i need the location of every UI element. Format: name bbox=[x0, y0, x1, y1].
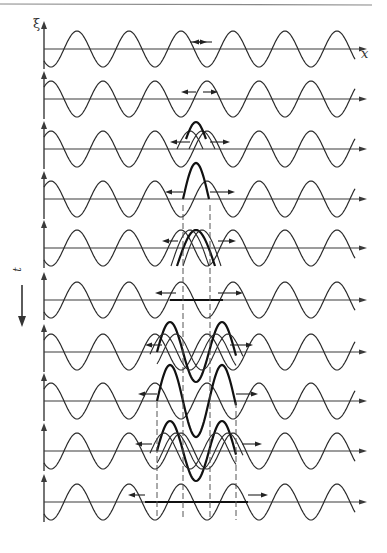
arrowhead-icon bbox=[162, 239, 169, 244]
axis-arrowhead-icon bbox=[41, 474, 47, 482]
wave-rows bbox=[41, 21, 367, 522]
time-arrow bbox=[18, 285, 26, 327]
wave-row bbox=[41, 474, 367, 522]
axis-arrowhead-icon bbox=[359, 399, 367, 404]
wave-diagram bbox=[0, 0, 387, 553]
axis-arrowhead-icon bbox=[41, 171, 47, 179]
wave-row bbox=[41, 71, 367, 119]
arrowhead-icon bbox=[192, 40, 199, 45]
arrowhead-icon bbox=[246, 343, 253, 348]
axis-arrowhead-icon bbox=[41, 324, 47, 332]
arrowhead-icon bbox=[255, 442, 262, 447]
axis-arrowhead-icon bbox=[41, 71, 47, 79]
wave-row bbox=[41, 365, 367, 437]
wave-row bbox=[41, 163, 367, 219]
wave-row bbox=[41, 220, 367, 268]
axis-arrowhead-icon bbox=[41, 121, 47, 129]
axis-arrowhead-icon bbox=[41, 21, 47, 29]
axis-arrowhead-icon bbox=[359, 246, 367, 251]
arrowhead-icon bbox=[138, 392, 145, 397]
position-axis-label: x bbox=[361, 46, 368, 61]
arrowhead-icon bbox=[228, 190, 235, 195]
axis-arrowhead-icon bbox=[359, 97, 367, 102]
wave-row bbox=[41, 21, 367, 69]
arrowhead-icon bbox=[223, 140, 230, 145]
arrowhead-icon bbox=[261, 493, 268, 498]
wave-row bbox=[41, 272, 367, 320]
wave-row bbox=[41, 322, 367, 382]
displacement-axis-label: ξ bbox=[33, 16, 40, 31]
axis-arrowhead-icon bbox=[41, 373, 47, 381]
axis-arrowhead-icon bbox=[359, 500, 367, 505]
arrowhead-icon bbox=[128, 493, 135, 498]
axis-arrowhead-icon bbox=[41, 423, 47, 431]
arrowhead-icon bbox=[181, 90, 188, 95]
arrowhead-icon bbox=[170, 140, 177, 145]
wave-row bbox=[41, 421, 367, 481]
axis-arrowhead-icon bbox=[359, 298, 367, 303]
axis-arrowhead-icon bbox=[359, 197, 367, 202]
time-axis-label: t bbox=[11, 267, 24, 271]
axis-arrowhead-icon bbox=[41, 220, 47, 228]
top-rule bbox=[0, 4, 372, 5]
axis-arrowhead-icon bbox=[359, 350, 367, 355]
wave-row bbox=[41, 121, 367, 169]
axis-arrowhead-icon bbox=[41, 272, 47, 280]
axis-arrowhead-icon bbox=[359, 449, 367, 454]
axis-arrowhead-icon bbox=[359, 147, 367, 152]
arrowhead-icon bbox=[251, 392, 258, 397]
arrowhead-icon bbox=[135, 442, 142, 447]
arrowhead-icon bbox=[155, 291, 162, 296]
arrowhead-icon bbox=[229, 239, 236, 244]
